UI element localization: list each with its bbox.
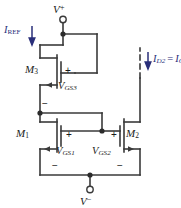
schematic-canvas [0,0,181,208]
label-m2: M2 [126,128,139,140]
vgs2-minus-sign: − [117,161,123,171]
vgs1-minus-sign: − [52,161,58,171]
label-vgs3: VGS3 [58,81,77,92]
label-vgs1: VGS1 [56,146,75,157]
label-m3: M3 [25,64,38,76]
node-bottom-rail [87,172,92,177]
label-vminus: V− [80,195,92,207]
vminus-terminal [87,186,93,192]
label-vplus: V+ [53,3,65,15]
vgs1-plus-sign: + [66,130,72,140]
label-vgs2: VGS2 [92,146,111,157]
node-m3-drain [37,110,42,115]
label-id2-io: ID2=IO [153,54,181,65]
m1-source-arrow [44,146,50,152]
node-top-rail [60,31,65,36]
m3-source-arrow [46,82,52,88]
label-m1: M1 [16,128,29,140]
vgs2-plus-sign: + [111,130,117,140]
vgs3-minus-sign: − [42,99,48,109]
node-gate-bus [99,128,104,133]
vplus-terminal [60,16,66,22]
vgs3-plus-sign: + [65,66,71,76]
label-iref: IREF [4,25,21,36]
iref-arrow-head [29,38,35,45]
circuit-figure: V+ IREF ID2=IO M3 M1 M2 + VGS3 − + VGS1 … [0,0,181,208]
m2-source-arrow [128,146,134,152]
id2-arrow-head [145,62,151,69]
